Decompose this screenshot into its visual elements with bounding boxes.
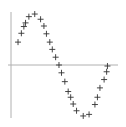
plus-marker xyxy=(74,108,80,114)
plus-marker xyxy=(92,102,98,108)
plus-marker xyxy=(47,39,53,45)
plus-marker xyxy=(68,94,74,100)
plus-marker xyxy=(58,70,64,76)
plus-marker xyxy=(41,23,47,29)
plus-marker xyxy=(43,31,49,37)
plus-marker xyxy=(80,113,86,119)
plus-marker xyxy=(70,101,76,107)
plus-marker xyxy=(104,69,110,75)
plus-marker xyxy=(94,94,100,100)
plus-marker xyxy=(62,79,68,85)
plus-marker xyxy=(49,46,55,52)
plus-marker xyxy=(86,111,92,117)
plus-marker xyxy=(18,30,24,36)
plus-marker xyxy=(32,11,38,17)
plus-marker xyxy=(97,85,103,91)
plus-marker xyxy=(53,54,59,60)
scatter-chart xyxy=(0,0,126,127)
plus-marker xyxy=(101,77,107,83)
plus-marker xyxy=(26,14,32,20)
plus-marker xyxy=(104,63,110,69)
plus-marker xyxy=(56,62,62,68)
plus-marker xyxy=(65,89,71,95)
plus-marker xyxy=(15,39,21,45)
plus-marker xyxy=(38,16,44,22)
